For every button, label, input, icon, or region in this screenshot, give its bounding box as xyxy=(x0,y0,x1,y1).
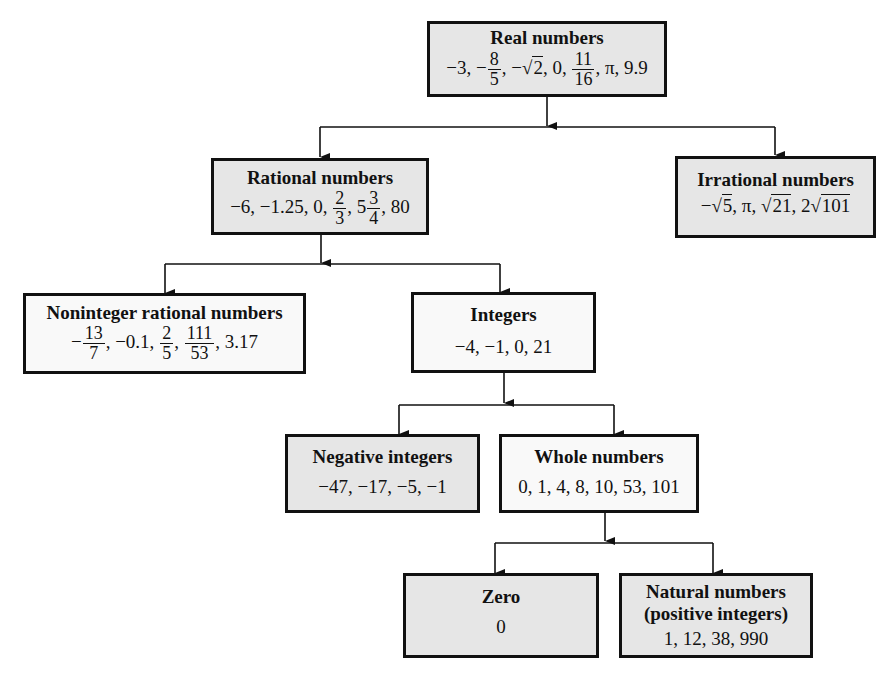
irrational-numbers-box: Irrational numbers −√5, π, √21, 2√101 xyxy=(675,156,876,238)
rational-numbers-box: Rational numbers −6, −1.25, 0, 23, 534, … xyxy=(211,158,429,235)
text: , 80 xyxy=(381,196,410,217)
numerator: 2 xyxy=(160,324,173,344)
denominator: 5 xyxy=(160,344,173,363)
fraction-2-3: 23 xyxy=(333,189,346,228)
irrational-numbers-title: Irrational numbers xyxy=(678,169,873,191)
fraction-3-4: 34 xyxy=(367,189,380,228)
sqrt-2: √2 xyxy=(522,57,543,79)
numerator: 13 xyxy=(83,324,105,344)
real-numbers-examples: −3, −85, −√2, 0, 1116, π, 9.9 xyxy=(430,50,664,89)
negative-integers-box: Negative integers −47, −17, −5, −1 xyxy=(285,434,480,513)
radical-sign: √ xyxy=(711,195,721,216)
natural-numbers-title: Natural numbers xyxy=(622,581,810,603)
text: , π, xyxy=(732,195,761,216)
text: , −0.1, xyxy=(106,331,159,352)
denominator: 53 xyxy=(185,344,215,363)
radical-sign: √ xyxy=(810,195,820,216)
radicand: 21 xyxy=(771,194,791,216)
numerator: 111 xyxy=(185,324,215,344)
real-numbers-title: Real numbers xyxy=(430,27,664,49)
sqrt-5: √5 xyxy=(711,195,732,217)
radical-sign: √ xyxy=(761,195,771,216)
zero-title: Zero xyxy=(406,586,596,608)
natural-numbers-examples: 1, 12, 38, 990 xyxy=(622,628,810,650)
numerator: 2 xyxy=(333,189,346,209)
negative-integers-title: Negative integers xyxy=(288,446,477,468)
rational-numbers-examples: −6, −1.25, 0, 23, 534, 80 xyxy=(214,189,426,228)
negative-integers-examples: −47, −17, −5, −1 xyxy=(288,476,477,498)
text: , 2 xyxy=(791,195,810,216)
numerator: 8 xyxy=(488,50,501,70)
denominator: 16 xyxy=(572,70,594,89)
text: , 0, xyxy=(543,57,572,78)
radicand: 101 xyxy=(821,194,851,216)
integers-title: Integers xyxy=(414,304,593,326)
noninteger-rational-box: Noninteger rational numbers −137, −0.1, … xyxy=(23,293,306,374)
numerator: 3 xyxy=(367,189,380,209)
text: −3, − xyxy=(446,57,486,78)
text: −6, −1.25, 0, xyxy=(230,196,332,217)
denominator: 7 xyxy=(83,344,105,363)
radicand: 5 xyxy=(722,194,733,216)
text: , − xyxy=(502,57,522,78)
rational-numbers-title: Rational numbers xyxy=(214,167,426,189)
radical-sign: √ xyxy=(522,57,532,78)
radicand: 2 xyxy=(532,56,543,78)
text: , 5 xyxy=(347,196,366,217)
fraction-111-53: 11153 xyxy=(185,324,215,363)
fraction-13-7: 137 xyxy=(83,324,105,363)
numerator: 11 xyxy=(572,50,594,70)
denominator: 3 xyxy=(333,209,346,228)
integers-box: Integers −4, −1, 0, 21 xyxy=(411,292,596,373)
whole-numbers-box: Whole numbers 0, 1, 4, 8, 10, 53, 101 xyxy=(499,434,699,513)
text: , xyxy=(174,331,184,352)
denominator: 4 xyxy=(367,209,380,228)
natural-numbers-subtitle: (positive integers) xyxy=(622,603,810,625)
noninteger-rational-examples: −137, −0.1, 25, 11153, 3.17 xyxy=(26,324,303,363)
irrational-numbers-examples: −√5, π, √21, 2√101 xyxy=(678,195,873,217)
text: − xyxy=(71,331,82,352)
sqrt-101: √101 xyxy=(810,195,850,217)
noninteger-rational-title: Noninteger rational numbers xyxy=(26,302,303,324)
text: , π, 9.9 xyxy=(595,57,647,78)
zero-examples: 0 xyxy=(406,616,596,638)
denominator: 5 xyxy=(488,70,501,89)
whole-numbers-title: Whole numbers xyxy=(502,446,696,468)
text: − xyxy=(701,195,712,216)
natural-numbers-box: Natural numbers (positive integers) 1, 1… xyxy=(619,573,813,658)
fraction-11-16: 1116 xyxy=(572,50,594,89)
zero-box: Zero 0 xyxy=(403,573,599,658)
whole-numbers-examples: 0, 1, 4, 8, 10, 53, 101 xyxy=(502,476,696,498)
integers-examples: −4, −1, 0, 21 xyxy=(414,336,593,358)
real-numbers-box: Real numbers −3, −85, −√2, 0, 1116, π, 9… xyxy=(427,21,667,97)
sqrt-21: √21 xyxy=(761,195,791,217)
fraction-2-5: 25 xyxy=(160,324,173,363)
fraction-8-5: 85 xyxy=(488,50,501,89)
text: , 3.17 xyxy=(215,331,258,352)
